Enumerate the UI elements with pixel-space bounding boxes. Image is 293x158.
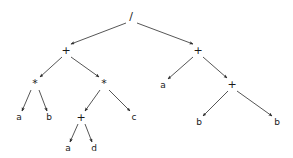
tree-edge-n2-n5 <box>168 57 193 79</box>
tree-node-operator-n1: + <box>61 45 70 56</box>
tree-node-operator-n0: / <box>129 11 133 22</box>
tree-edge-n1-n4 <box>71 57 99 77</box>
tree-edge-n6-n11 <box>203 91 228 116</box>
tree-node-operator-n6: + <box>227 79 236 90</box>
tree-node-leaf-n7: a <box>16 113 22 122</box>
tree-edge-n0-n1 <box>71 23 126 44</box>
tree-node-leaf-n5: a <box>160 81 166 90</box>
tree-node-operator-n3: * <box>32 78 38 89</box>
tree-edge-n2-n6 <box>203 57 227 78</box>
tree-node-leaf-n12: b <box>274 118 280 127</box>
tree-edge-n4-n10 <box>109 90 130 111</box>
tree-edge-n0-n2 <box>137 23 193 44</box>
tree-node-leaf-n8: b <box>46 113 52 122</box>
tree-edge-n1-n3 <box>40 57 62 77</box>
tree-edge-n4-n9 <box>85 90 100 111</box>
tree-node-leaf-n11: b <box>196 118 202 127</box>
tree-node-operator-n4: * <box>101 78 107 89</box>
tree-edge-layer <box>0 0 293 158</box>
tree-node-leaf-n13: a <box>65 144 71 153</box>
tree-edge-n3-n7 <box>22 90 31 111</box>
tree-node-operator-n2: + <box>193 45 202 56</box>
tree-edge-n9-n13 <box>70 124 78 142</box>
expression-tree-diagram: /++**a+ab+cbbad <box>0 0 293 158</box>
tree-edge-n6-n12 <box>237 91 272 116</box>
tree-node-operator-n9: + <box>76 112 85 123</box>
tree-node-leaf-n10: c <box>132 113 137 122</box>
tree-edge-n9-n14 <box>85 124 92 142</box>
tree-edge-n3-n8 <box>39 90 47 111</box>
tree-node-leaf-n14: d <box>91 144 97 153</box>
